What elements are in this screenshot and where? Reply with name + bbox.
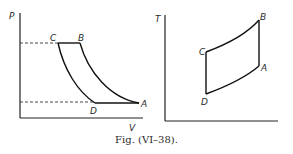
point-b-label: B [78, 33, 84, 43]
point-a-label-right: A [260, 63, 267, 73]
p-axis-label: P [9, 11, 15, 21]
adiabat-ba [80, 43, 139, 103]
point-a-label: A [140, 99, 147, 109]
v-axis-label: V [129, 123, 136, 133]
point-d-label: D [90, 106, 97, 116]
t-diagram: T C B A D [155, 12, 278, 121]
figure-caption: Fig. (VI–38). [0, 134, 293, 145]
t-axis-label: T [155, 14, 162, 24]
pv-diagram: P V C B D A [9, 11, 147, 133]
adiabat-cd [58, 43, 95, 103]
figure-canvas: P V C B D A T C B A D [0, 0, 293, 154]
point-c-label-right: C [199, 47, 206, 57]
curve-da [206, 66, 259, 94]
point-b-label-right: B [260, 12, 266, 22]
point-d-label-right: D [201, 97, 208, 107]
point-c-label: C [50, 33, 57, 43]
curve-cb [206, 20, 259, 52]
